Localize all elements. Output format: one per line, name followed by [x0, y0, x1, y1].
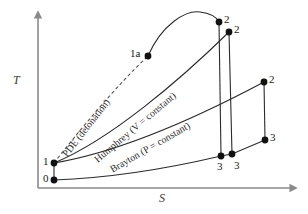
marker-pt-2-brayton — [261, 79, 268, 86]
marker-pt-1a — [145, 53, 152, 60]
marker-pt-3-humphrey — [229, 151, 236, 158]
point-label-2-pde: 2 — [224, 13, 230, 25]
pde-expansion-line — [219, 22, 221, 156]
marker-pt-1 — [51, 160, 58, 167]
point-label-3-brayton: 3 — [270, 131, 276, 143]
y-axis-label: T — [13, 73, 20, 88]
x-axis-label: S — [159, 191, 165, 206]
point-label-2-humphrey: 2 — [234, 23, 240, 35]
pde-arc-curve — [148, 12, 219, 56]
marker-pt-2-humphrey — [226, 29, 233, 36]
brayton-expansion-line — [264, 82, 265, 140]
point-label-1: 1 — [43, 155, 49, 167]
point-label-0: 0 — [43, 172, 49, 184]
marker-pt-3-brayton — [262, 137, 269, 144]
ts-diagram-figure: T S PDE (detonation) Humphrey (V = const… — [0, 0, 308, 214]
marker-pt-2-pde — [216, 19, 223, 26]
lower-isobar-extension — [221, 140, 265, 156]
point-label-1a: 1a — [130, 47, 140, 59]
point-label-2-brayton: 2 — [269, 73, 275, 85]
point-label-3-pde: 3 — [217, 160, 223, 172]
humphrey-expansion-line — [229, 32, 232, 154]
marker-pt-0 — [51, 177, 58, 184]
point-label-3-humphrey: 3 — [234, 159, 240, 171]
marker-pt-3-pde — [218, 153, 225, 160]
